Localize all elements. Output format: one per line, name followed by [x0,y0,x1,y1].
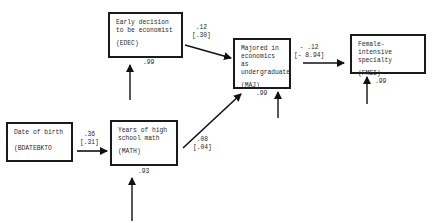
node-edec-line1: Early decision [116,19,169,26]
coef-math-maj: .08 [197,136,208,143]
edge-label-edec-maj: .12 [.30] [192,24,211,40]
coef-edec-maj: .12 [196,24,207,31]
node-fmsi-line2: specialty [358,57,392,64]
node-edec: Early decision to be economist (EDEC) [108,12,183,58]
residual-label-edec: .99 [143,59,154,67]
edge-edec-to-maj [185,45,231,58]
std-math-maj: [.04] [193,144,212,151]
node-maj-line3: undergraduate [241,69,290,76]
node-maj-line1: Majored in [241,45,279,52]
coef-maj-fmsi: - .12 [300,44,319,51]
node-edec-abbr: (EDEC) [116,40,175,48]
std-edec-maj: [.30] [192,32,211,39]
node-edec-line2: to be economist [116,27,173,34]
node-maj-line2: economics as [241,53,275,68]
residual-label-maj: .99 [256,90,267,98]
node-date-of-birth: Date of birth (BDATEBKTO [6,122,73,162]
edge-math-to-maj [183,94,241,148]
node-maj: Majored in economics as undergraduate (M… [233,38,291,89]
node-date-abbr: (BDATEBKTO [14,145,65,153]
node-fmsi: Female-intensive specialty (FMSI) [350,34,426,74]
node-math-abbr: (MATH) [118,148,170,156]
node-fmsi-abbr: (FMSI) [358,70,418,78]
edge-label-date-math: .36 [.31] [80,131,99,147]
edge-label-math-maj: .08 [.04] [193,136,212,152]
node-maj-abbr: (MAJ) [241,82,283,90]
node-fmsi-line1: Female-intensive [358,41,392,56]
node-math-line2: school math [118,135,160,142]
coef-date-math: .36 [84,131,95,138]
edge-label-maj-fmsi: - .12 [- 8.94] [294,44,324,60]
node-math: Years of high school math (MATH) [110,120,178,166]
residual-label-fmsi: .99 [375,78,386,86]
node-date-line1: Date of birth [14,129,63,136]
node-math-line1: Years of high [118,127,167,134]
std-maj-fmsi: [- 8.94] [294,52,324,59]
std-date-math: [.31] [80,139,99,146]
residual-label-math: .93 [138,168,149,176]
